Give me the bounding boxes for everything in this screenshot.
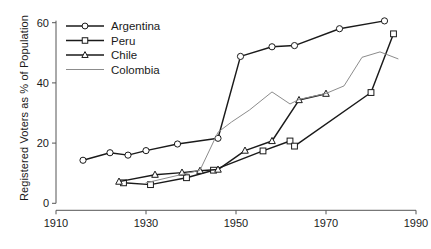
chart-figure: Registered Voters as % of Population 020… bbox=[0, 0, 431, 249]
series-line bbox=[146, 52, 398, 183]
series-line bbox=[119, 94, 326, 182]
legend-item-peru[interactable]: Peru bbox=[66, 35, 135, 47]
data-point-marker-circle bbox=[82, 23, 88, 29]
data-point-marker-square bbox=[292, 143, 298, 149]
data-point-marker-circle bbox=[80, 157, 86, 163]
legend-label: Chile bbox=[111, 49, 137, 61]
series-colombia bbox=[146, 52, 398, 183]
legend-label: Colombia bbox=[111, 64, 160, 76]
legend-label: Peru bbox=[111, 35, 135, 47]
data-point-marker-circle bbox=[237, 53, 243, 59]
line-chart-plot: 020406019101930195019701990ArgentinaPeru… bbox=[0, 0, 431, 249]
data-point-marker-circle bbox=[174, 141, 180, 147]
data-point-marker-square bbox=[368, 90, 374, 96]
x-tick-label: 1970 bbox=[314, 217, 338, 229]
data-point-marker-circle bbox=[291, 42, 297, 48]
legend-item-chile[interactable]: Chile bbox=[66, 49, 137, 61]
data-point-marker-circle bbox=[381, 18, 387, 24]
legend-label: Argentina bbox=[111, 20, 161, 32]
data-point-marker-circle bbox=[143, 148, 149, 154]
y-tick-label: 40 bbox=[37, 77, 49, 89]
x-tick-label: 1990 bbox=[404, 217, 428, 229]
data-point-marker-circle bbox=[125, 152, 131, 158]
data-point-marker-circle bbox=[107, 150, 113, 156]
chart-legend: ArgentinaPeruChileColombia bbox=[66, 20, 161, 76]
data-point-marker-circle bbox=[336, 26, 342, 32]
legend-item-argentina[interactable]: Argentina bbox=[66, 20, 161, 32]
x-tick-label: 1950 bbox=[224, 217, 248, 229]
y-tick-label: 60 bbox=[37, 17, 49, 29]
series-line bbox=[124, 34, 394, 185]
x-tick-label: 1910 bbox=[44, 217, 68, 229]
data-point-marker-circle bbox=[269, 44, 275, 50]
series-chile bbox=[116, 90, 330, 184]
series-peru bbox=[121, 31, 397, 188]
data-point-marker-square bbox=[260, 148, 266, 154]
y-tick-label: 0 bbox=[43, 197, 49, 209]
x-tick-label: 1930 bbox=[134, 217, 158, 229]
data-point-marker-square bbox=[82, 38, 88, 44]
data-point-marker-square bbox=[391, 31, 397, 37]
y-tick-label: 20 bbox=[37, 137, 49, 149]
legend-item-colombia[interactable]: Colombia bbox=[66, 64, 160, 76]
